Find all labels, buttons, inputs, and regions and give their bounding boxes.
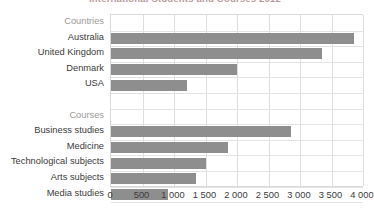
x-tick-label: 1 500 [193, 190, 216, 200]
empty-row [111, 93, 363, 109]
bar[interactable] [111, 64, 237, 75]
bar[interactable] [111, 33, 354, 44]
bar-row [111, 46, 363, 62]
category-label: United Kingdom [0, 45, 108, 61]
x-tick-label: 4 000 [350, 190, 373, 200]
bar[interactable] [111, 142, 228, 153]
empty-row [111, 15, 363, 31]
bar[interactable] [111, 80, 187, 91]
x-tick-label: 0 [107, 190, 112, 200]
bar[interactable] [111, 48, 322, 59]
bar-row [111, 31, 363, 47]
bar-row [111, 140, 363, 156]
category-label: Arts subjects [0, 170, 108, 186]
bar-row [111, 62, 363, 78]
x-tick-label: 3 500 [319, 190, 342, 200]
category-label: Denmark [0, 61, 108, 77]
empty-row [111, 109, 363, 125]
group-label: Countries [0, 14, 108, 30]
bar-row [111, 171, 363, 187]
category-label: Business studies [0, 123, 108, 139]
x-tick-label: 500 [134, 190, 150, 200]
category-label: USA [0, 76, 108, 92]
x-tick-label: 2 500 [256, 190, 279, 200]
row-separator [111, 202, 363, 203]
category-label: Medicine [0, 139, 108, 155]
category-label: Australia [0, 30, 108, 46]
bar[interactable] [111, 158, 206, 169]
chart-title: International Students and Courses 2012 [0, 0, 370, 3]
x-tick-label: 2 000 [224, 190, 247, 200]
group-label: Courses [0, 108, 108, 124]
x-axis-line [110, 186, 363, 187]
plot-area [110, 14, 363, 186]
bar-row [111, 77, 363, 93]
spacer-label [0, 92, 108, 108]
category-axis-labels: CountriesAustraliaUnited KingdomDenmarkU… [0, 14, 108, 201]
bar-row [111, 155, 363, 171]
bar[interactable] [111, 173, 196, 184]
category-label: Media studies [0, 186, 108, 202]
gridline [363, 15, 364, 186]
bar-row [111, 124, 363, 140]
x-tick-label: 1 000 [161, 190, 184, 200]
category-label: Technological subjects [0, 154, 108, 170]
bar[interactable] [111, 126, 291, 137]
x-tick-label: 3 000 [287, 190, 310, 200]
